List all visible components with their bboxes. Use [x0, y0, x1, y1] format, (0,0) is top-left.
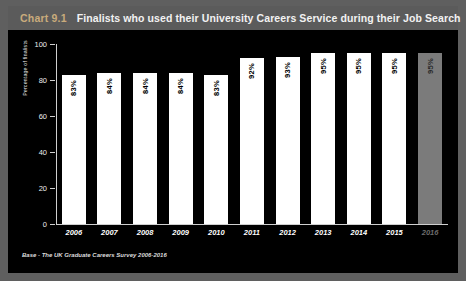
plot-area: 020406080100 83%84%84%84%83%92%93%95%95%… — [56, 44, 448, 224]
bar-slot: 84% — [97, 44, 121, 224]
y-tick-mark — [50, 116, 55, 117]
source-note-text: Base - The UK Graduate Careers Survey 20… — [22, 252, 167, 258]
bar-value-label: 95% — [354, 58, 363, 74]
bar: 95% — [382, 53, 406, 224]
x-tick-label: 2013 — [311, 228, 335, 242]
y-tick-label: 80 — [39, 76, 47, 85]
bar-slot: 92% — [240, 44, 264, 224]
bar-slot: 95% — [382, 44, 406, 224]
bar-value-label: 84% — [176, 78, 185, 94]
x-axis-labels: 2006200720082009201020112012201320142015… — [56, 228, 448, 242]
x-tick-label: 2009 — [169, 228, 193, 242]
bar-value-label: 83% — [212, 80, 221, 96]
bar-slot: 83% — [204, 44, 228, 224]
bar: 92% — [240, 58, 264, 224]
bar: 83% — [204, 75, 228, 224]
chart-figure: Chart 9.1 Finalists who used their Unive… — [0, 0, 466, 281]
bar-slot: 93% — [276, 44, 300, 224]
bar-slot: 95% — [311, 44, 335, 224]
bar-value-label: 83% — [69, 80, 78, 96]
chart-title-bar: Chart 9.1 Finalists who used their Unive… — [8, 6, 458, 30]
chart-plot-panel: Percentage of finalists 020406080100 83%… — [8, 30, 458, 273]
x-tick-label: 2016 — [418, 228, 442, 242]
x-tick-label: 2015 — [382, 228, 406, 242]
bar: 83% — [62, 75, 86, 224]
bar: 84% — [97, 73, 121, 224]
y-tick-label: 100 — [34, 40, 47, 49]
x-tick-label: 2007 — [97, 228, 121, 242]
x-tick-label: 2012 — [276, 228, 300, 242]
y-tick-mark — [50, 44, 55, 45]
page-title: Finalists who used their University Care… — [77, 12, 461, 24]
y-tick-mark — [50, 152, 55, 153]
x-tick-label: 2014 — [347, 228, 371, 242]
bar-value-label: 84% — [105, 78, 114, 94]
bar-value-label: 95% — [390, 58, 399, 74]
bar-series: 83%84%84%84%83%92%93%95%95%95%95% — [56, 44, 448, 224]
y-tick-label: 20 — [39, 184, 47, 193]
bar-slot: 95% — [418, 44, 442, 224]
bar-slot: 83% — [62, 44, 86, 224]
x-tick-label: 2011 — [240, 228, 264, 242]
bar: 93% — [276, 57, 300, 224]
bar: 95% — [418, 53, 442, 224]
bar: 84% — [169, 73, 193, 224]
bar: 95% — [311, 53, 335, 224]
y-tick-label: 0 — [43, 220, 47, 229]
bar-value-label: 92% — [247, 63, 256, 79]
bar: 95% — [347, 53, 371, 224]
bar: 84% — [133, 73, 157, 224]
y-tick-mark — [50, 188, 55, 189]
y-tick-label: 60 — [39, 112, 47, 121]
x-axis-line — [56, 224, 448, 225]
y-tick-label: 40 — [39, 148, 47, 157]
bar-value-label: 93% — [283, 62, 292, 78]
y-tick-mark — [50, 80, 55, 81]
bar-value-label: 95% — [319, 58, 328, 74]
bar-slot: 84% — [169, 44, 193, 224]
x-tick-label: 2010 — [204, 228, 228, 242]
bar-value-label: 95% — [426, 58, 435, 74]
source-note: Base - The UK Graduate Careers Survey 20… — [22, 252, 167, 258]
y-axis-title: Percentage of finalists — [22, 18, 28, 118]
x-tick-label: 2006 — [62, 228, 86, 242]
y-tick-mark — [50, 224, 55, 225]
bar-slot: 95% — [347, 44, 371, 224]
x-tick-label: 2008 — [133, 228, 157, 242]
bar-value-label: 84% — [141, 78, 150, 94]
bar-slot: 84% — [133, 44, 157, 224]
